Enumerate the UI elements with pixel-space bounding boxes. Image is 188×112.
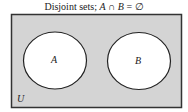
- universe-label: U: [17, 93, 24, 104]
- venn-diagram: [0, 0, 188, 112]
- set-b-label: B: [135, 55, 141, 66]
- set-a-label: A: [51, 54, 57, 65]
